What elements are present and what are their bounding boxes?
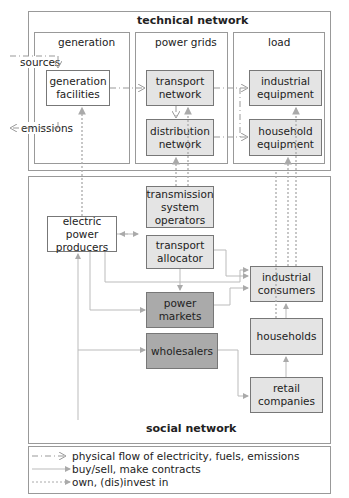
legend-line-samples [0,0,349,498]
legend-buy-sell: buy/sell, make contracts [72,463,201,475]
legend-own-invest: own, (dis)invest in [72,476,168,488]
legend-physical-flow: physical flow of electricity, fuels, emi… [72,450,299,462]
